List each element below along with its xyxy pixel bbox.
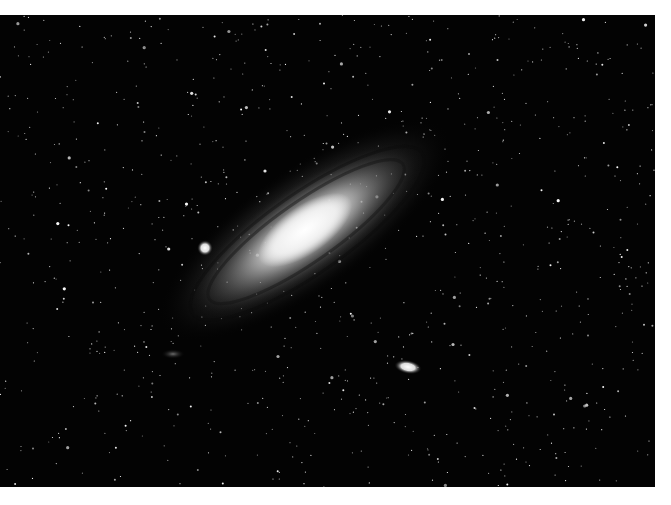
faint-star-cluster: [161, 349, 185, 359]
galaxy-m31: [126, 79, 484, 381]
satellite-galaxy-m32: [197, 240, 213, 256]
satellite-galaxy-m110: [393, 358, 423, 377]
astronomy-photo: [0, 15, 655, 487]
sky-scene: [0, 15, 655, 487]
